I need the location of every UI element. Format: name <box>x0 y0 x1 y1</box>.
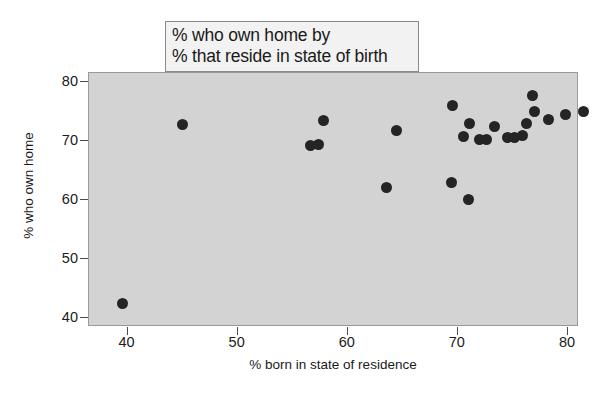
y-tick-mark <box>80 258 88 259</box>
data-point <box>529 106 540 117</box>
x-tick-mark <box>567 327 568 335</box>
scatter-plot-figure: 4050607080 4050607080 % born in state of… <box>0 0 599 395</box>
x-axis-label: % born in state of residence <box>88 357 578 372</box>
y-tick-label: 80 <box>44 74 78 88</box>
data-point <box>560 109 571 120</box>
x-tick-label: 70 <box>432 334 482 350</box>
data-point <box>458 131 469 142</box>
data-point <box>521 118 532 129</box>
chart-title-line-2: % that reside in state of birth <box>172 46 412 67</box>
data-point <box>527 90 538 101</box>
data-point <box>464 118 475 129</box>
data-point <box>381 182 392 193</box>
data-point <box>318 115 329 126</box>
data-point <box>489 121 500 132</box>
y-axis-tick-labels: 4050607080 <box>0 0 78 395</box>
y-tick-mark <box>80 140 88 141</box>
data-point <box>391 125 402 136</box>
x-tick-mark <box>457 327 458 335</box>
data-point <box>313 139 324 150</box>
y-tick-label: 70 <box>44 133 78 147</box>
y-tick-mark <box>80 199 88 200</box>
y-axis-label: % who own home <box>21 96 36 276</box>
data-point <box>447 100 458 111</box>
data-point <box>463 194 474 205</box>
y-tick-mark <box>80 81 88 82</box>
data-point <box>117 298 128 309</box>
chart-title-box: % who own home by % that reside in state… <box>165 21 419 72</box>
data-point <box>177 119 188 130</box>
x-tick-mark <box>347 327 348 335</box>
x-tick-label: 50 <box>212 334 262 350</box>
data-point <box>481 134 492 145</box>
y-tick-mark <box>80 317 88 318</box>
y-tick-label: 60 <box>44 192 78 206</box>
x-tick-label: 80 <box>542 334 592 350</box>
plot-panel <box>88 72 578 326</box>
y-tick-label: 40 <box>44 310 78 324</box>
x-tick-mark <box>127 327 128 335</box>
data-point <box>446 177 457 188</box>
y-tick-label: 50 <box>44 251 78 265</box>
data-points-layer <box>89 73 577 325</box>
data-point <box>517 130 528 141</box>
x-tick-label: 60 <box>322 334 372 350</box>
data-point <box>543 114 554 125</box>
chart-title-line-1: % who own home by <box>172 25 412 46</box>
data-point <box>578 106 589 117</box>
x-tick-label: 40 <box>102 334 152 350</box>
x-tick-mark <box>237 327 238 335</box>
